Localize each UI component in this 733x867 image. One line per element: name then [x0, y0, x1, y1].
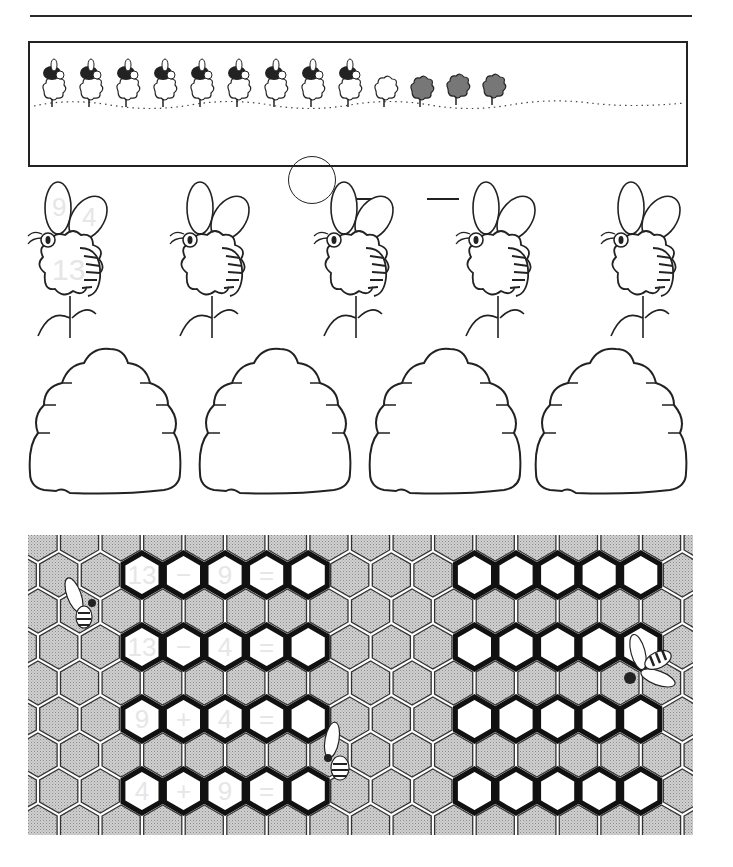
comb-cell: [663, 553, 693, 597]
top-rule: [30, 15, 692, 17]
comb-cell: [643, 589, 681, 633]
comb-cell: [102, 661, 140, 705]
comb-cell: [393, 589, 431, 633]
comb-cell: [40, 769, 78, 813]
equation-cell-left[interactable]: [289, 625, 327, 669]
flower-number: 13: [52, 253, 85, 286]
honeycomb-puzzle: 13−9=13−4=9+4=4+9= “Their father Israel …: [28, 535, 693, 835]
equation-term: 4: [218, 632, 232, 662]
comb-cell: [601, 589, 639, 633]
comb-cell: [518, 733, 556, 777]
equation-cell-right[interactable]: [580, 553, 618, 597]
bee-on-comb-right: [620, 630, 685, 695]
comb-cell: [102, 733, 140, 777]
bee-flower-2: [162, 178, 262, 343]
bee-on-comb-center: [310, 720, 360, 790]
counting-strip-box: [28, 41, 688, 167]
equation-cell-right[interactable]: [497, 625, 535, 669]
comb-cell: [185, 733, 223, 777]
equation-term: 9: [135, 704, 149, 734]
equation-term: 9: [218, 776, 232, 806]
equation-cell-right[interactable]: [580, 625, 618, 669]
equation-term: 4: [135, 776, 149, 806]
beehive-4[interactable]: [528, 345, 688, 495]
equation-term: −: [176, 560, 191, 590]
equation-term: =: [259, 704, 274, 734]
comb-cell: [643, 733, 681, 777]
comb-cell: [227, 589, 265, 633]
equation-cell-right[interactable]: [539, 553, 577, 597]
equation-term: =: [259, 776, 274, 806]
equation-cell-right[interactable]: [622, 769, 660, 813]
equation-term: 13: [127, 632, 156, 662]
bee-on-comb-left: [56, 573, 106, 643]
comb-cell: [40, 697, 78, 741]
comb-cell: [352, 805, 390, 835]
equation-term: +: [176, 776, 191, 806]
comb-cell: [227, 733, 265, 777]
equation-cell-right[interactable]: [455, 625, 493, 669]
equation-cell-right[interactable]: [539, 697, 577, 741]
equation-cell-left[interactable]: [289, 553, 327, 597]
comb-cell: [663, 697, 693, 741]
comb-cell: [185, 589, 223, 633]
comb-cell: [476, 733, 514, 777]
equation-cell-right[interactable]: [455, 553, 493, 597]
beehive-2[interactable]: [192, 345, 352, 495]
bee-flower-5: [593, 178, 693, 343]
equation-term: +: [176, 704, 191, 734]
equation-cell-right[interactable]: [497, 697, 535, 741]
equation-cell-right[interactable]: [497, 769, 535, 813]
beehive-3[interactable]: [362, 345, 522, 495]
comb-cell: [331, 553, 369, 597]
bee-flower-1: 9 4 13: [20, 178, 120, 343]
equation-cell-right[interactable]: [622, 553, 660, 597]
comb-cell: [414, 625, 452, 669]
bee-flower-3: [306, 178, 406, 343]
equation-cell-right[interactable]: [455, 697, 493, 741]
equation-term: =: [259, 632, 274, 662]
comb-cell: [372, 697, 410, 741]
comb-cell: [372, 553, 410, 597]
comb-cell: [331, 625, 369, 669]
comb-cell: [185, 661, 223, 705]
comb-cell: [81, 697, 119, 741]
wing-left-number: 9: [52, 192, 66, 222]
comb-cell: [393, 661, 431, 705]
equation-cell-right[interactable]: [580, 697, 618, 741]
comb-cell: [61, 733, 99, 777]
comb-cell: [518, 661, 556, 705]
comb-cell: [102, 589, 140, 633]
equation-cell-right[interactable]: [539, 769, 577, 813]
comb-cell: [414, 769, 452, 813]
equation-term: 13: [127, 560, 156, 590]
comb-cell: [663, 769, 693, 813]
equation-cell-right[interactable]: [622, 697, 660, 741]
comb-cell: [28, 589, 57, 633]
bees-on-flowers-strip: [30, 43, 686, 165]
comb-cell: [393, 805, 431, 835]
equation-cell-right[interactable]: [497, 553, 535, 597]
comb-cell: [81, 769, 119, 813]
comb-cell: [28, 733, 57, 777]
equation-term: 4: [218, 704, 232, 734]
equation-term: =: [259, 560, 274, 590]
comb-cell: [476, 661, 514, 705]
equation-cell-right[interactable]: [580, 769, 618, 813]
comb-cell: [352, 661, 390, 705]
comb-cell: [414, 553, 452, 597]
comb-cell: [61, 805, 99, 835]
comb-cell: [393, 733, 431, 777]
equation-cell-right[interactable]: [539, 625, 577, 669]
comb-cell: [476, 589, 514, 633]
comb-cell: [61, 661, 99, 705]
wing-right-number: 4: [82, 202, 96, 232]
equation-term: −: [176, 632, 191, 662]
comb-cell: [352, 589, 390, 633]
comb-cell: [601, 733, 639, 777]
comb-cell: [435, 661, 473, 705]
beehive-1[interactable]: [22, 345, 182, 495]
comb-cell: [372, 625, 410, 669]
comb-cell: [372, 769, 410, 813]
equation-cell-right[interactable]: [455, 769, 493, 813]
